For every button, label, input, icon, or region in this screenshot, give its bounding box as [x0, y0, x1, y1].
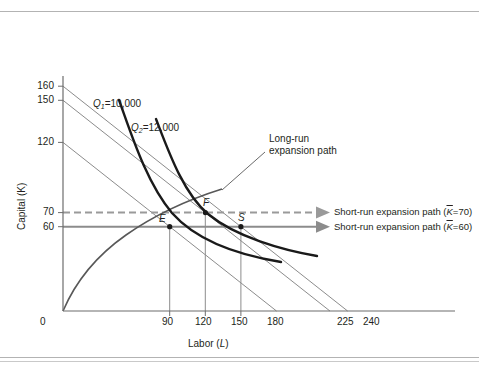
y-tick-label-150: 150 [22, 94, 54, 105]
legend-70-suffix: =70) [453, 206, 472, 217]
isoquant-q1-symbol: Q [93, 98, 101, 109]
figure-container: 160 150 120 70 60 0 90 120 150 180 225 2… [0, 0, 479, 372]
isoquant-q2-symbol: Q [131, 122, 139, 133]
x-tick-label-90: 90 [162, 316, 173, 327]
point-marker-f [203, 210, 208, 215]
long-run-label-leader-line [222, 152, 265, 190]
short-run-expansion-path-70 [63, 207, 330, 219]
point-label-f: F [203, 197, 209, 208]
point-marker-s [238, 224, 243, 229]
isoquant-q1-label: Q1=10,000 [93, 98, 141, 112]
y-tick-label-60: 60 [28, 221, 54, 232]
y-axis-title: Capital (K) [16, 183, 27, 230]
short-run-70-arrowhead [316, 207, 330, 219]
x-axis-title-prefix: Labor ( [188, 338, 220, 349]
point-label-s: S [238, 212, 245, 223]
legend-60-prefix: Short-run expansion path ( [334, 221, 446, 232]
point-label-e: E [159, 213, 166, 224]
isoquant-q1-value: =10,000 [105, 98, 141, 109]
y-axis-ticks [58, 86, 63, 227]
x-tick-label-180: 180 [267, 316, 284, 327]
isoquant-q2-label: Q2=12,000 [131, 122, 179, 136]
long-run-expansion-path-label: Long-run expansion path [269, 133, 337, 157]
legend-60-suffix: =60) [453, 221, 472, 232]
isoquant-q2-value: =12,000 [143, 122, 179, 133]
x-tick-label-240: 240 [363, 316, 380, 327]
top-horizontal-rule [0, 11, 479, 12]
x-tick-label-120: 120 [195, 316, 212, 327]
short-run-expansion-path-60 [63, 221, 330, 233]
x-tick-label-225: 225 [337, 316, 354, 327]
long-run-label-line2: expansion path [269, 145, 337, 157]
y-tick-label-160: 160 [22, 80, 54, 91]
bottom-horizontal-rule-1 [0, 357, 479, 358]
legend-70-prefix: Short-run expansion path ( [334, 206, 446, 217]
y-tick-label-70: 70 [28, 206, 54, 217]
legend-row-short-run-70: Short-run expansion path (K=70) [334, 206, 472, 218]
y-tick-label-120: 120 [22, 136, 54, 147]
short-run-60-arrowhead [316, 221, 330, 233]
origin-label: 0 [40, 316, 46, 327]
x-axis-title-suffix: ) [225, 338, 228, 349]
legend-row-short-run-60: Short-run expansion path (K=60) [334, 221, 472, 233]
x-tick-label-150: 150 [231, 316, 248, 327]
isocost-line-150-225 [63, 100, 330, 311]
point-marker-e [167, 224, 172, 229]
long-run-label-line1: Long-run [269, 133, 337, 145]
bottom-horizontal-rule-2 [0, 361, 479, 362]
x-axis-title: Labor (L) [188, 338, 229, 349]
